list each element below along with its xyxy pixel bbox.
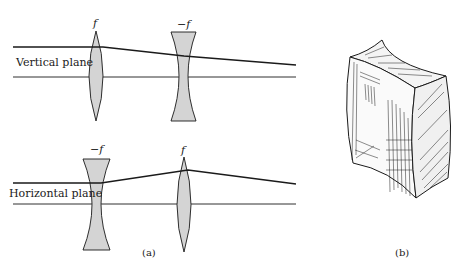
quadrupole-block-illustration [347,40,451,198]
block-right-face [412,76,451,198]
converging-lens-icon [89,31,103,121]
diverging-lens-icon [83,159,110,250]
ray-horizontal [13,170,296,184]
caption-a: (a) [142,247,156,258]
vertical-plane-diagram: Vertical plane f −f [13,17,296,121]
caption-b: (b) [395,247,409,258]
horizontal-plane-label: Horizontal plane [9,187,102,200]
horizontal-plane-diagram: Horizontal plane −f f [9,143,296,252]
focal-label-f: f [92,17,99,30]
focal-label-minus-f: −f [177,18,192,31]
vertical-plane-label: Vertical plane [15,56,93,69]
quadrupole-lens-figure: Vertical plane f −f Horizontal plane −f … [0,0,463,268]
focal-label-minus-f: −f [90,143,105,156]
diverging-lens-icon [171,32,196,121]
focal-label-f: f [180,144,187,157]
